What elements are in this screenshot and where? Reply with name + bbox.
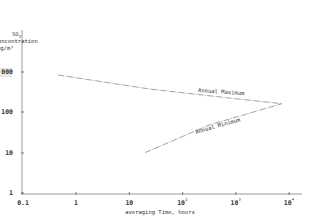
x-tick-label: 10² <box>177 197 188 207</box>
labels: Annual MaximumAnnual Minimumaveraging Ti… <box>0 31 245 216</box>
y-tick-label: 1 <box>9 189 13 197</box>
x-tick-label: 0.1 <box>17 199 29 207</box>
annotation-annual-minimum: Annual Minimum <box>195 116 242 135</box>
x-tick-label: 10 <box>125 199 133 207</box>
ticks: 0.111010²10³10⁴110100000 <box>1 68 294 207</box>
series <box>58 75 282 153</box>
y-axis-label-line3: µg/m³ <box>0 45 14 52</box>
x-tick-label: 1 <box>74 199 78 207</box>
y-axis-label-line2: oncentration <box>0 38 38 44</box>
y-tick-label: 000 <box>1 68 13 76</box>
y-tick-label: 10 <box>5 149 13 157</box>
y-tick-label: 100 <box>1 108 13 116</box>
axes <box>0 30 302 194</box>
x-axis-label: averaging Time, hours <box>125 209 195 216</box>
series-line-annual-maximum <box>58 75 282 104</box>
chart-canvas: 0.111010²10³10⁴110100000 Annual MaximumA… <box>0 0 315 223</box>
chart-root: 0.111010²10³10⁴110100000 Annual MaximumA… <box>0 0 315 223</box>
x-tick-label: 10³ <box>230 197 241 207</box>
x-tick-label: 10⁴ <box>284 197 295 207</box>
